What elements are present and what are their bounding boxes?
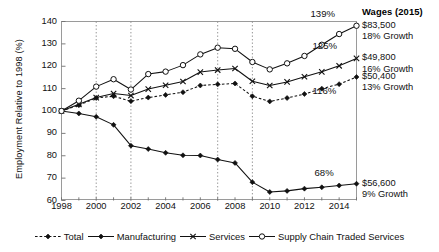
x-tick-label: 2004 — [155, 202, 176, 211]
x-tick-label: 2002 — [121, 202, 142, 211]
legend-label: Total — [63, 231, 86, 242]
series-end-label: 68% — [315, 168, 334, 178]
wage-value: $56,600 — [362, 178, 408, 189]
legend-label: Services — [208, 231, 247, 242]
series-manufacturing — [59, 109, 359, 195]
series-end-label: 116% — [313, 86, 337, 96]
legend-item-total[interactable]: Total — [33, 231, 86, 242]
legend-marker-x-icon — [178, 231, 208, 242]
chart-figure: Employment Relative to 1998 (%) 60708090… — [0, 0, 439, 252]
legend-label: Supply Chain Traded Services — [277, 231, 406, 242]
series-wage-annotation: $49,80016% Growth — [362, 52, 413, 74]
wage-growth: 13% Growth — [362, 82, 413, 93]
wages-header: Wages (2015) — [362, 6, 423, 17]
legend-label: Manufacturing — [116, 231, 178, 242]
legend-marker-open-circle-icon — [247, 231, 277, 242]
legend-marker-filled-diamond-icon — [33, 231, 63, 242]
wage-growth: 18% Growth — [362, 31, 413, 42]
wage-value: $49,800 — [362, 52, 413, 63]
legend-item-supply-chain-traded-services[interactable]: Supply Chain Traded Services — [247, 231, 406, 242]
x-tick-label: 2010 — [259, 202, 280, 211]
wage-growth: 16% Growth — [362, 64, 413, 75]
x-tick-label: 2014 — [329, 202, 350, 211]
x-axis-tick-labels: 199820002002200420062008201020122014 — [0, 202, 439, 218]
chart-legend: TotalManufacturingServicesSupply Chain T… — [0, 231, 439, 242]
series-wage-annotation: $56,6009% Growth — [362, 178, 408, 200]
series-supply-chain-traded-services — [59, 23, 359, 114]
legend-marker-filled-diamond-icon — [86, 231, 116, 242]
wage-value: $83,500 — [362, 20, 413, 31]
series-wage-annotation: $83,50018% Growth — [362, 20, 413, 42]
wage-growth: 9% Growth — [362, 189, 408, 200]
legend-item-manufacturing[interactable]: Manufacturing — [86, 231, 178, 242]
series-end-label: 125% — [313, 41, 338, 51]
x-tick-label: 2006 — [190, 202, 211, 211]
x-tick-label: 2012 — [294, 202, 315, 211]
x-tick-label: 1998 — [51, 202, 72, 211]
x-tick-label: 2008 — [225, 202, 246, 211]
x-tick-label: 2000 — [86, 202, 107, 211]
legend-item-services[interactable]: Services — [178, 231, 247, 242]
series-end-label: 139% — [311, 9, 336, 19]
